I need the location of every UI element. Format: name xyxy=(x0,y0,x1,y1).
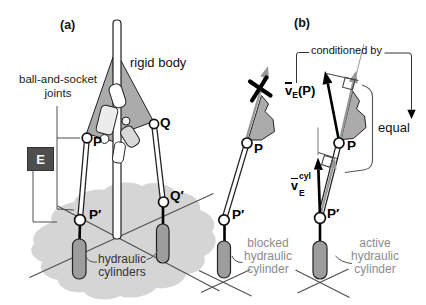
blocked-cylinder xyxy=(218,241,231,278)
rigid-body-label: rigid body xyxy=(130,56,186,70)
conditioned-by-label: conditioned by xyxy=(311,45,382,57)
active-cylinder-label: active hydraulic cylinder xyxy=(344,237,406,276)
point-q-label-a: Q xyxy=(160,116,171,130)
point-p-prime-label-a: P′ xyxy=(89,208,101,222)
projection-arrow-at-p-prime xyxy=(321,158,337,214)
hydraulic-cylinders-label: hydraulic cylinders xyxy=(86,253,158,279)
point-p-label-a: P xyxy=(93,135,102,149)
blocked-cylinder-label: blocked hydraulic cylinder xyxy=(236,237,300,276)
ball-and-socket-label: ball-and-socket joints xyxy=(8,72,108,100)
panel-a-label: (a) xyxy=(60,19,75,32)
panel-b-label: (b) xyxy=(294,17,310,30)
point-q-prime-label-a: Q′ xyxy=(170,189,184,203)
central-pole xyxy=(113,20,121,239)
frame-e-badge: E xyxy=(27,147,54,171)
velocity-arrow-vep xyxy=(323,71,339,141)
joints-leader xyxy=(57,106,74,210)
active-cylinder xyxy=(313,241,327,279)
point-p-label-middle: P xyxy=(254,142,263,156)
x-blocked-mark xyxy=(250,78,271,101)
point-p-prime-label-b: P′ xyxy=(327,207,339,221)
figure-hydraulic-cylinders: (a) rigid body ball-and-socket joints E … xyxy=(0,0,426,305)
point-p-label-b: P xyxy=(347,139,356,153)
velocity-vep-label: vE(P) xyxy=(285,84,315,98)
velocity-vcyl-label: vcylE xyxy=(291,179,313,194)
equal-down-arrowhead xyxy=(407,110,415,119)
equal-label: equal xyxy=(378,121,410,135)
point-p-prime-label-middle: P′ xyxy=(232,208,244,222)
